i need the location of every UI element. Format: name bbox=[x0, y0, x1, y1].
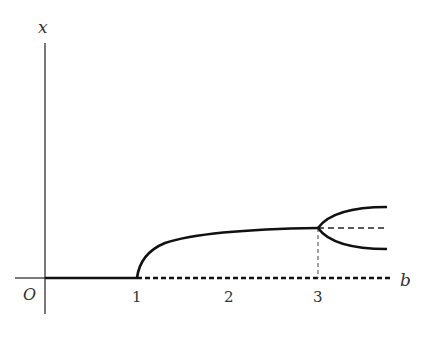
x-axis-label: b bbox=[400, 270, 411, 290]
origin-label: O bbox=[23, 285, 36, 304]
x-tick-1: 1 bbox=[132, 288, 142, 306]
bifurcation-diagram: x b O 1 2 3 bbox=[0, 0, 430, 338]
lower-pitchfork-branch bbox=[318, 228, 387, 249]
upper-pitchfork-branch bbox=[318, 207, 387, 228]
stable-sqrt-branch bbox=[137, 228, 318, 278]
y-axis-label: x bbox=[38, 17, 48, 37]
x-tick-3: 3 bbox=[313, 288, 323, 306]
x-tick-2: 2 bbox=[224, 288, 234, 306]
